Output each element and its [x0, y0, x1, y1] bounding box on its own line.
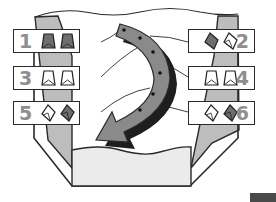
- step-number: 5: [19, 102, 32, 123]
- step-number: 4: [236, 67, 249, 88]
- trapezoid-outline-icon: [203, 69, 220, 87]
- step-5-box: 5: [13, 101, 80, 125]
- top-wave-line: [35, 9, 238, 18]
- curved-arrow: [96, 24, 170, 142]
- trapezoid-dark-icon: [59, 32, 76, 50]
- diamond-outline-icon: [40, 104, 57, 122]
- step-number: 2: [236, 30, 249, 51]
- step-number: 3: [19, 67, 32, 88]
- step-number: 1: [19, 30, 32, 51]
- trapezoid-dark-icon: [40, 32, 57, 50]
- floor-panel: [72, 147, 191, 186]
- step-3-box: 3: [13, 66, 80, 90]
- step-4-box: 4: [188, 66, 255, 90]
- step-6-box: 6: [188, 101, 255, 125]
- step-1-box: 1: [13, 29, 80, 53]
- diamond-dark-icon: [59, 104, 76, 122]
- folding-sequence-diagram: 1 2 3 4 5: [0, 0, 276, 202]
- diamond-outline-icon: [203, 104, 220, 122]
- trapezoid-outline-icon: [59, 69, 76, 87]
- trapezoid-outline-icon: [40, 69, 57, 87]
- corner-bar: [250, 193, 276, 202]
- step-number: 6: [236, 102, 249, 123]
- step-2-box: 2: [188, 29, 255, 53]
- diamond-dark-icon: [203, 32, 220, 50]
